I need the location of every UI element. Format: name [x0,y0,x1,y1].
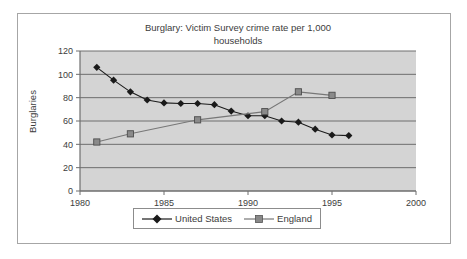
x-tick-label: 1980 [70,198,90,208]
data-point-marker [329,92,335,98]
chart-legend: United States England [133,208,321,229]
x-tick-label: 1985 [154,198,174,208]
legend-label-united-states: United States [175,213,232,224]
x-tick-label: 2000 [406,198,426,208]
data-point-marker [195,117,201,123]
y-tick-label: 20 [63,163,73,173]
y-tick-label: 0 [68,186,73,196]
y-tick-label: 100 [58,70,73,80]
y-tick-label: 40 [63,140,73,150]
x-tick-label: 1995 [322,198,342,208]
data-point-marker [295,89,301,95]
y-tick-label: 60 [63,116,73,126]
chart-figure: Burglary: Victim Survey crime rate per 1… [17,13,451,244]
y-tick-label: 120 [58,46,73,56]
data-point-marker [127,131,133,137]
legend-item-united-states[interactable]: United States [142,213,232,225]
x-tick-label: 1990 [238,198,258,208]
legend-marker-diamond-icon [142,213,172,225]
legend-label-england: England [277,213,312,224]
data-point-marker [262,109,268,115]
legend-item-england[interactable]: England [244,213,312,225]
legend-marker-square-icon [244,213,274,225]
y-tick-label: 80 [63,93,73,103]
data-point-marker [94,139,100,145]
